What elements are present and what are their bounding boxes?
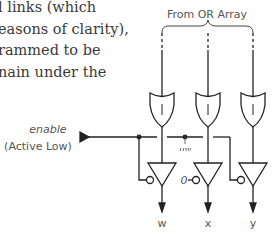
active-low-label: (Active Low) (4, 140, 72, 153)
tristate-buffer-x (188, 163, 222, 186)
enable-arrow-icon (80, 132, 89, 142)
or-gate-w (150, 93, 174, 127)
dashed-inputs (162, 33, 253, 50)
constant-zero-label: 0 (181, 174, 188, 187)
tristate-buffer-y (238, 163, 268, 186)
tristate-buffer-w (147, 163, 177, 186)
output-label-x: x (205, 217, 212, 230)
output-arrow-icon (205, 203, 211, 212)
from-or-array-label: From OR Array (167, 8, 248, 21)
enable-label: enable (29, 123, 67, 136)
pla-output-circuit: From OR Array (0, 0, 272, 236)
or-gate-x (196, 93, 220, 127)
output-arrow-icon (159, 203, 165, 212)
output-arrow-icon (250, 203, 256, 212)
brace (162, 20, 253, 33)
output-label-y: y (250, 217, 257, 230)
output-label-w: w (158, 217, 167, 230)
or-gate-y (241, 93, 265, 127)
